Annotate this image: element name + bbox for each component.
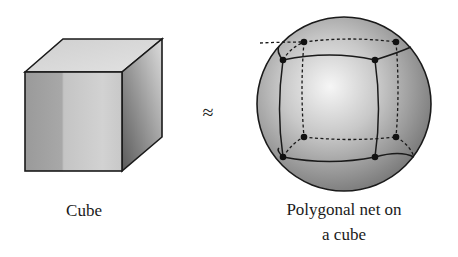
cube-label: Cube xyxy=(66,201,102,220)
cube-shape xyxy=(25,39,162,171)
sphere-label-line1: Polygonal net on xyxy=(286,200,402,219)
vertex-dot xyxy=(393,39,400,46)
cube-front-face xyxy=(25,72,122,171)
vertex-dot xyxy=(280,154,287,161)
vertex-dot xyxy=(280,57,287,64)
vertex-dot xyxy=(372,57,379,64)
approx-symbol: ≈ xyxy=(203,101,214,123)
sphere-with-net xyxy=(257,17,431,191)
diagram-canvas: ≈ xyxy=(0,0,458,257)
vertex-dot xyxy=(393,134,400,141)
sphere-shape xyxy=(257,17,431,191)
vertex-dot xyxy=(301,39,308,46)
sphere-label-line2: a cube xyxy=(322,225,366,244)
vertex-dot xyxy=(301,134,308,141)
vertex-dot xyxy=(372,154,379,161)
